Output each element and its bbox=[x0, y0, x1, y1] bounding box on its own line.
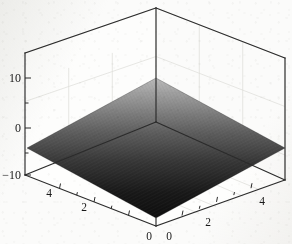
y-tick-label-2: 2 bbox=[205, 216, 211, 228]
y-tick-label-0: 0 bbox=[166, 230, 172, 242]
y-tick-label-4: 4 bbox=[259, 195, 265, 207]
plot-figure: 10 0 −10 4 2 0 0 2 4 bbox=[0, 0, 292, 244]
x-tick-label-0: 0 bbox=[146, 230, 152, 242]
z-tick-label-0: 0 bbox=[15, 121, 21, 135]
x-tick-label-2: 2 bbox=[81, 201, 87, 213]
z-tick-label-10: 10 bbox=[9, 71, 21, 85]
x-tick-label-4: 4 bbox=[46, 187, 52, 199]
z-tick-label-neg10: −10 bbox=[2, 168, 21, 182]
plot-canvas: 10 0 −10 4 2 0 0 2 4 bbox=[0, 0, 292, 244]
